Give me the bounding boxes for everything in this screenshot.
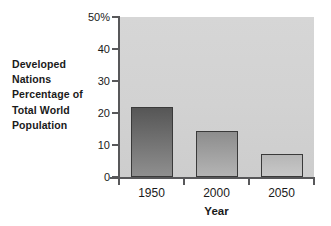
chart-screenshot: Developed Nations Percentage of Total Wo… (0, 0, 331, 226)
bar-2000[interactable] (196, 131, 238, 177)
x-axis-title: Year (119, 205, 314, 217)
y-tick-20 (112, 112, 118, 114)
x-tick-0 (118, 178, 120, 185)
y-tick-30 (112, 80, 118, 82)
x-tick-3 (313, 178, 315, 185)
y-axis-caption-line-3: Percentage of (12, 87, 108, 102)
x-axis-label-1950: 1950 (138, 186, 165, 200)
y-tick-label-30: 30 (78, 75, 110, 87)
bar-1950[interactable] (131, 107, 173, 177)
x-axis-line (110, 177, 315, 179)
y-tick-label-40: 40 (78, 43, 110, 55)
y-tick-label-20: 20 (78, 107, 110, 119)
y-tick-10 (112, 144, 118, 146)
x-axis-label-2000: 2000 (203, 186, 230, 200)
y-tick-40 (112, 48, 118, 50)
x-axis-label-2050: 2050 (268, 186, 295, 200)
bar-2050[interactable] (261, 154, 303, 177)
y-tick-label-10: 10 (78, 139, 110, 151)
y-tick-label-50: 50% (78, 11, 110, 23)
x-tick-2 (248, 178, 250, 185)
y-tick-50 (112, 16, 118, 18)
y-axis-caption-line-1: Developed (12, 57, 108, 72)
y-axis-caption-line-5: Population (12, 118, 108, 133)
y-tick-0 (112, 176, 118, 178)
y-axis-caption: Developed Nations Percentage of Total Wo… (12, 57, 108, 133)
y-tick-label-0: 0 (78, 171, 110, 183)
y-axis-line (118, 16, 120, 178)
x-tick-1 (183, 178, 185, 185)
